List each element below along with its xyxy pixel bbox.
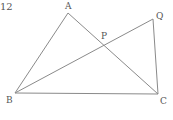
label-P: P: [101, 32, 107, 41]
label-C: C: [160, 97, 167, 106]
segment-BC: [15, 93, 158, 94]
label-A: A: [65, 2, 72, 11]
segment-QC: [153, 19, 158, 94]
triangle-diagram: [0, 0, 173, 120]
label-B: B: [6, 96, 13, 105]
segment-AB: [15, 13, 68, 93]
segment-BQ: [15, 19, 153, 93]
problem-number: 12: [0, 2, 13, 12]
segment-AC: [68, 13, 158, 94]
label-Q: Q: [156, 12, 163, 21]
geometry-figure: 12 A P Q B C: [0, 0, 173, 120]
